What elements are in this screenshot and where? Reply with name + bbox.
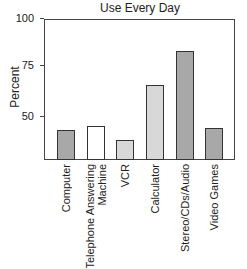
y-tick-label-50: 50 <box>10 111 34 122</box>
y-tick-50 <box>40 116 44 117</box>
x-label-calculator: Calculator <box>149 164 161 214</box>
y-tick-label-75: 75 <box>10 60 34 71</box>
bar-vcr <box>116 140 134 160</box>
bar-calculator <box>146 85 164 160</box>
x-label-computer: Computer <box>60 164 72 212</box>
x-label-stereo-cds-audio: Stereo/CDs/Audio <box>179 164 191 252</box>
y-tick-75 <box>40 65 44 66</box>
bar-computer <box>57 130 75 160</box>
x-label-video-games: Video Games <box>208 164 220 230</box>
bar-video-games <box>205 128 223 160</box>
bar-telephone-answering-machine <box>87 126 105 160</box>
chart-title: Use Every Day <box>44 1 236 15</box>
y-tick-label-100: 100 <box>10 13 34 24</box>
x-label-vcr: VCR <box>119 164 131 187</box>
y-tick-100 <box>40 18 44 19</box>
bar-stereo-cds-audio <box>176 51 194 160</box>
x-label-telephone-answering-machine: Telephone Answering Machine <box>84 164 108 269</box>
